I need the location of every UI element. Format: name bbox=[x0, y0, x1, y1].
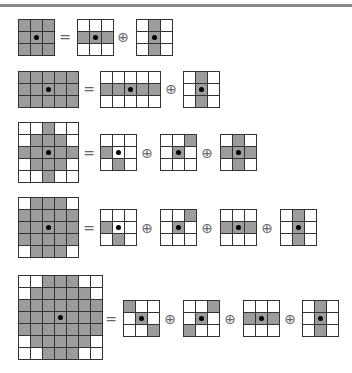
grid-cell bbox=[113, 234, 125, 246]
grid-cell bbox=[19, 159, 31, 171]
grid-cell bbox=[102, 44, 114, 56]
grid-cell bbox=[91, 312, 103, 324]
grid-cell bbox=[125, 96, 137, 108]
grid-cell bbox=[221, 147, 233, 159]
origin-dot-icon bbox=[236, 225, 241, 230]
grid-cell bbox=[293, 210, 305, 222]
origin-dot-icon bbox=[318, 316, 323, 321]
grid-cell bbox=[78, 32, 90, 44]
origin-dot-icon bbox=[58, 315, 63, 320]
grid-cell bbox=[149, 72, 161, 84]
grid-cell bbox=[102, 20, 114, 32]
dilation-operator-icon: ⊕ bbox=[200, 146, 214, 160]
grid-cell bbox=[31, 300, 43, 312]
grid-cell bbox=[221, 135, 233, 147]
grid-cell bbox=[67, 84, 79, 96]
grid-cell bbox=[31, 222, 43, 234]
grid-cell bbox=[245, 234, 257, 246]
grid-cell bbox=[113, 72, 125, 84]
equals-sign-icon: = bbox=[104, 312, 118, 326]
grid-cell bbox=[244, 325, 256, 337]
grid-cell bbox=[31, 234, 43, 246]
grid-cell bbox=[245, 147, 257, 159]
grid-cell bbox=[245, 210, 257, 222]
grid-cell bbox=[67, 159, 79, 171]
grid-cell bbox=[113, 84, 125, 96]
grid-cell bbox=[185, 234, 197, 246]
grid-cell bbox=[303, 325, 315, 337]
grid-cell bbox=[113, 135, 125, 147]
grid-cell bbox=[55, 288, 67, 300]
grid-cell bbox=[67, 198, 79, 210]
grid-cell bbox=[55, 336, 67, 348]
dilation-operator-icon: ⊕ bbox=[200, 221, 214, 235]
grid-cell bbox=[43, 84, 55, 96]
grid-cell bbox=[67, 348, 79, 360]
grid-cell bbox=[245, 159, 257, 171]
grid-cell bbox=[67, 336, 79, 348]
grid-cell bbox=[125, 147, 137, 159]
origin-dot-icon bbox=[236, 150, 241, 155]
grid-cell bbox=[184, 313, 196, 325]
grid-cell bbox=[221, 210, 233, 222]
grid-cell bbox=[31, 20, 43, 32]
grid-cell bbox=[161, 20, 173, 32]
grid-cell bbox=[184, 96, 196, 108]
structuring-element-target-3 bbox=[18, 122, 79, 183]
grid-cell bbox=[149, 96, 161, 108]
grid-cell bbox=[31, 84, 43, 96]
grid-cell bbox=[221, 222, 233, 234]
grid-cell bbox=[31, 348, 43, 360]
grid-cell bbox=[113, 147, 125, 159]
grid-cell bbox=[43, 171, 55, 183]
grid-cell bbox=[67, 171, 79, 183]
grid-cell bbox=[79, 276, 91, 288]
grid-cell bbox=[31, 159, 43, 171]
origin-dot-icon bbox=[152, 35, 157, 40]
dilation-operator-icon: ⊕ bbox=[260, 221, 274, 235]
grid-cell bbox=[101, 222, 113, 234]
grid-cell bbox=[102, 32, 114, 44]
grid-cell bbox=[79, 300, 91, 312]
grid-cell bbox=[149, 32, 161, 44]
grid-cell bbox=[19, 147, 31, 159]
grid-cell bbox=[31, 123, 43, 135]
grid-cell bbox=[233, 159, 245, 171]
grid-cell bbox=[79, 288, 91, 300]
grid-cell bbox=[19, 198, 31, 210]
grid-cell bbox=[196, 72, 208, 84]
grid-cell bbox=[101, 135, 113, 147]
grid-cell bbox=[137, 84, 149, 96]
factor-4-1 bbox=[100, 209, 137, 246]
grid-cell bbox=[90, 32, 102, 44]
grid-cell bbox=[303, 313, 315, 325]
grid-cell bbox=[327, 325, 339, 337]
grid-cell bbox=[101, 234, 113, 246]
grid-cell bbox=[90, 44, 102, 56]
grid-cell bbox=[55, 276, 67, 288]
grid-cell bbox=[208, 313, 220, 325]
structuring-element-target-5 bbox=[18, 275, 103, 360]
grid-cell bbox=[43, 96, 55, 108]
grid-cell bbox=[208, 96, 220, 108]
grid-cell bbox=[78, 44, 90, 56]
grid-cell bbox=[19, 234, 31, 246]
grid-cell bbox=[137, 32, 149, 44]
origin-dot-icon bbox=[116, 225, 121, 230]
grid-cell bbox=[221, 159, 233, 171]
dilation-operator-icon: ⊕ bbox=[164, 82, 178, 96]
grid-cell bbox=[305, 222, 317, 234]
grid-cell bbox=[315, 325, 327, 337]
grid-cell bbox=[303, 301, 315, 313]
grid-cell bbox=[19, 171, 31, 183]
grid-cell bbox=[31, 72, 43, 84]
grid-cell bbox=[305, 210, 317, 222]
grid-cell bbox=[149, 84, 161, 96]
equals-sign-icon: = bbox=[58, 30, 72, 44]
grid-cell bbox=[101, 210, 113, 222]
grid-cell bbox=[268, 301, 280, 313]
grid-cell bbox=[55, 135, 67, 147]
grid-cell bbox=[19, 324, 31, 336]
grid-cell bbox=[245, 222, 257, 234]
grid-cell bbox=[91, 336, 103, 348]
